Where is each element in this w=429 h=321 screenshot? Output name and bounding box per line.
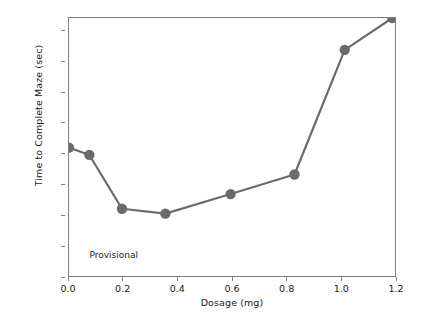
y-tick-mark: [61, 30, 65, 31]
y-axis-label: Time to Complete Maze (sec): [33, 0, 44, 236]
y-tick-mark: [61, 246, 65, 247]
x-tick-mark: [232, 277, 233, 281]
x-tick-label: 0.4: [161, 283, 193, 294]
x-tick-mark: [286, 277, 287, 281]
y-tick-mark: [61, 153, 65, 154]
data-point-marker: [160, 208, 170, 218]
x-tick-mark: [68, 277, 69, 281]
x-tick-mark: [122, 277, 123, 281]
x-axis-label: Dosage (mg): [68, 297, 396, 308]
data-point-marker: [69, 142, 74, 152]
data-point-marker: [117, 204, 127, 214]
x-tick-label: 1.0: [325, 283, 357, 294]
provisional-annotation: Provisional: [90, 250, 139, 260]
x-tick-mark: [177, 277, 178, 281]
data-series-line: [69, 18, 395, 276]
data-point-marker: [84, 150, 94, 160]
x-tick-label: 0.8: [271, 283, 303, 294]
y-tick-mark: [61, 61, 65, 62]
chart-figure: 0255075100125150175200 Time to Complete …: [0, 0, 429, 321]
y-tick-mark: [61, 277, 65, 278]
data-point-marker: [340, 45, 350, 55]
x-tick-mark: [396, 277, 397, 281]
x-tick-label: 1.2: [380, 283, 412, 294]
x-tick-mark: [341, 277, 342, 281]
y-tick-mark: [61, 184, 65, 185]
y-tick-mark: [61, 122, 65, 123]
y-tick-mark: [61, 215, 65, 216]
data-point-marker: [289, 169, 299, 179]
plot-area: Provisional: [68, 17, 396, 277]
x-tick-label: 0.2: [107, 283, 139, 294]
y-tick-mark: [61, 92, 65, 93]
data-point-marker: [225, 189, 235, 199]
x-tick-label: 0.0: [52, 283, 84, 294]
x-tick-label: 0.6: [216, 283, 248, 294]
data-point-marker: [387, 18, 395, 23]
